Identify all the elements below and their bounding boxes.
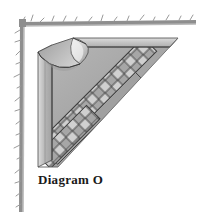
left-border-shadow (23, 24, 24, 212)
figure-caption: Diagram O (38, 172, 103, 188)
figure-page: Diagram O (0, 0, 200, 220)
border-corner-joint (19, 19, 26, 27)
